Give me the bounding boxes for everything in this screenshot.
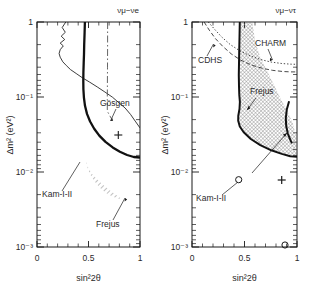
marker-circle-upper-right xyxy=(236,177,242,183)
xtick-label-r-05: 0.5 xyxy=(239,253,251,263)
ytick-label-r-1e-2: 10⁻² xyxy=(171,167,188,177)
panel-right-title-group: νμ−ντ xyxy=(276,6,297,15)
panel-left-y-ticklabels: 1 10⁻¹ 10⁻² 10⁻³ xyxy=(16,17,34,252)
panel-left-x-ticklabels: 0 0.5 1 xyxy=(35,253,143,263)
xtick-label-1: 1 xyxy=(138,253,143,263)
panel-left-x-axis xyxy=(37,22,140,247)
series-kam-allowed-region-left xyxy=(85,160,122,199)
panel-right: νμ−ντ xyxy=(160,6,300,283)
panel-left-title-group: νμ−νe xyxy=(117,6,139,15)
annotation-kam-i-ii-left-label: Kam-I-II xyxy=(42,189,72,199)
ytick-label-1e-1: 10⁻¹ xyxy=(16,92,33,102)
annotation-gosgen: Gösgen xyxy=(100,98,130,121)
xtick-label-05: 0.5 xyxy=(83,253,95,263)
annotation-gosgen-label: Gösgen xyxy=(100,98,130,108)
ytick-label-r-1e-3: 10⁻³ xyxy=(171,242,188,252)
figure-canvas: νμ−νe xyxy=(0,0,310,306)
annotation-frejus-left: Frejus xyxy=(96,198,127,229)
marker-cross-right xyxy=(278,176,286,184)
annotation-charm-label: CHARM xyxy=(255,38,286,48)
panel-left-xlabel: sin²2θ xyxy=(76,273,101,283)
panel-right-x-ticklabels: 0 0.5 1 xyxy=(190,253,300,263)
annotation-frejus-right-label: Frejus xyxy=(250,86,274,96)
panel-right-xlabel: sin²2θ xyxy=(232,273,257,283)
panel-left-plot-area xyxy=(59,22,140,199)
neutrino-oscillation-exclusion-figure: νμ−νe xyxy=(0,0,310,306)
ytick-label-1e-3: 10⁻³ xyxy=(16,242,33,252)
xtick-label-r-1: 1 xyxy=(295,253,300,263)
panel-left: νμ−νe xyxy=(5,6,143,283)
annotation-kam-i-ii-right-label: Kam-I-II xyxy=(196,193,226,203)
panel-left-frame xyxy=(37,22,140,247)
annotation-kam-i-ii-right: Kam-I-II xyxy=(196,182,238,203)
ytick-label-r-1e-1: 10⁻¹ xyxy=(171,92,188,102)
marker-cross-left xyxy=(114,131,122,139)
panel-right-title: νμ−ντ xyxy=(276,6,297,15)
panel-right-y-ticklabels: 1 10⁻¹ 10⁻² 10⁻³ xyxy=(171,17,189,252)
annotation-cdhs: CDHS xyxy=(198,44,222,65)
xtick-label-0: 0 xyxy=(35,253,40,263)
annotation-frejus-left-label: Frejus xyxy=(96,219,120,229)
panel-left-title: νμ−νe xyxy=(117,6,139,15)
annotation-cdhs-label: CDHS xyxy=(198,55,222,65)
ytick-label-1e-2: 10⁻² xyxy=(16,167,33,177)
panel-right-ylabel: Δm² (eV²) xyxy=(160,115,170,154)
ytick-label-1: 1 xyxy=(28,17,33,27)
series-kam-i-ii-left xyxy=(83,22,140,158)
panel-left-ylabel: Δm² (eV²) xyxy=(5,115,15,154)
ytick-label-r-1: 1 xyxy=(183,17,188,27)
panel-left-y-axis xyxy=(37,22,140,247)
xtick-label-r-0: 0 xyxy=(190,253,195,263)
series-frejus-left xyxy=(59,22,140,128)
annotation-kam-i-ii-left: Kam-I-II xyxy=(42,162,80,199)
